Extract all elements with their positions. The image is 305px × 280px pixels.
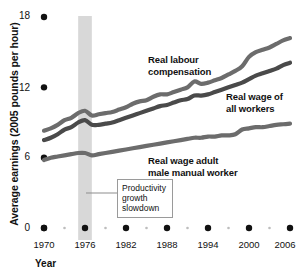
y-axis-tick-label-18: 18 [8,10,30,21]
series-label-line-1: Real wage of [226,91,283,103]
x-axis-tick-label-1994: 1994 [191,239,225,250]
y-axis-tick-label-0: 0 [8,222,30,233]
x-axis-tick-label-1982: 1982 [109,239,143,250]
y-axis-tick-label-6: 6 [8,151,30,162]
chart-container: Average earnings (2005 pounds per hour) … [0,0,305,280]
y-axis-tick-dots [41,14,47,231]
productivity-slowdown-band [78,16,92,240]
annotation-line-1: Productivity [122,183,168,193]
x-axis-tick-label-1988: 1988 [150,239,184,250]
series-label-line-1: Real wage adult [148,155,238,167]
series-label-line-2: all workers [226,103,283,115]
x-axis-title: Year [35,258,56,269]
series-label-real-labour-compensation: Real labour compensation [148,54,211,77]
chart-plot-area [0,0,305,280]
annotation-line-3: slowdown [122,203,168,213]
series-label-line-1: Real labour [148,54,211,66]
y-axis-tick-label-12: 12 [8,82,30,93]
series-label-real-wage-all-workers: Real wage of all workers [226,91,283,114]
series-label-line-2: compensation [148,66,211,78]
series-label-line-2: male manual worker [148,167,238,179]
x-axis-tick-label-1970: 1970 [27,239,61,250]
series-label-real-wage-adult-male-manual-worker: Real wage adult male manual worker [148,155,238,178]
x-axis-tick-label-2000: 2000 [232,239,266,250]
x-axis-tick-label-1976: 1976 [68,239,102,250]
annotation-productivity-growth-slowdown: Productivity growth slowdown [117,179,173,218]
x-axis-tick-label-2006: 2006 [268,239,302,250]
annotation-line-2: growth [122,193,168,203]
